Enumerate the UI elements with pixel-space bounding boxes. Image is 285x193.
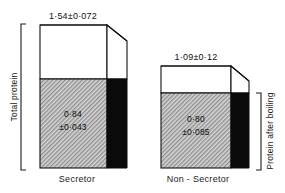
bar-chart: Total protein 1·54±0·072 0·84 ±0·043 Sec… bbox=[0, 0, 285, 193]
left-axis-label: Total protein bbox=[9, 72, 19, 121]
bar-group-secretor[interactable]: 1·54±0·072 0·84 ±0·043 Secretor bbox=[40, 11, 127, 184]
right-axis-label: Protein after boiling bbox=[265, 92, 275, 170]
bar2-total-label: 1·09±0·12 bbox=[175, 52, 218, 62]
bar1-total-label: 1·54±0·072 bbox=[49, 11, 97, 21]
bar2-boiled-side bbox=[231, 93, 249, 168]
bar2-total-side bbox=[231, 66, 249, 93]
left-axis-bracket bbox=[21, 24, 26, 170]
bar2-total-front bbox=[161, 66, 231, 93]
bar1-inner-value: 0·84 bbox=[64, 109, 82, 119]
bar2-category-label: Non - Secretor bbox=[167, 174, 230, 184]
bar1-total-front bbox=[40, 25, 107, 79]
bar1-boiled-side bbox=[107, 79, 127, 168]
bar2-inner-error: ±0·085 bbox=[182, 127, 210, 137]
figure-root: Total protein 1·54±0·072 0·84 ±0·043 Sec… bbox=[0, 0, 285, 193]
bar-group-non-secretor[interactable]: 1·09±0·12 0·80 ±0·085 Non - Secretor bbox=[161, 52, 249, 184]
right-axis-bracket bbox=[256, 93, 261, 170]
bar1-inner-error: ±0·043 bbox=[59, 122, 87, 132]
bar1-category-label: Secretor bbox=[59, 174, 95, 184]
bar2-inner-value: 0·80 bbox=[187, 114, 205, 124]
